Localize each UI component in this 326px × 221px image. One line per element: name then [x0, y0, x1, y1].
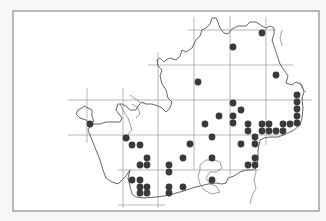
record-dot: [166, 162, 173, 169]
record-dot: [245, 121, 252, 128]
record-dot: [137, 142, 144, 149]
record-dot: [129, 142, 136, 149]
record-dot: [137, 184, 144, 191]
record-dot: [245, 128, 252, 135]
record-dot: [294, 99, 301, 106]
record-dot: [252, 141, 259, 148]
record-dot: [209, 177, 216, 184]
record-dot: [294, 92, 301, 99]
record-dot: [144, 162, 151, 169]
record-dot: [266, 128, 273, 135]
record-dot: [252, 155, 259, 162]
record-dot: [195, 79, 202, 86]
record-dot: [273, 72, 280, 79]
record-dot: [252, 162, 259, 169]
record-dot: [266, 121, 273, 128]
record-dot: [187, 141, 194, 148]
record-dot: [209, 134, 216, 141]
record-dot: [280, 121, 287, 128]
record-dot: [137, 177, 144, 184]
record-dot: [129, 177, 136, 184]
record-dot: [166, 169, 173, 176]
record-dot: [294, 113, 301, 120]
record-dot: [166, 190, 173, 197]
record-dot: [245, 162, 252, 169]
record-dot: [209, 155, 216, 162]
record-dot: [252, 134, 259, 141]
record-dot: [123, 135, 130, 142]
record-dot: [238, 141, 245, 148]
record-dot: [230, 113, 237, 120]
map-frame: [13, 11, 319, 211]
record-dot: [238, 107, 245, 114]
record-dot: [87, 121, 94, 128]
record-dot: [230, 100, 237, 107]
distribution-map: [0, 0, 326, 221]
record-dot: [216, 113, 223, 120]
record-dot: [144, 155, 151, 162]
record-dot: [144, 184, 151, 191]
record-dot: [180, 184, 187, 191]
record-dot: [280, 128, 287, 135]
record-dot: [137, 190, 144, 197]
record-dot: [259, 30, 266, 37]
record-dot: [259, 121, 266, 128]
record-dot: [166, 184, 173, 191]
record-dot: [137, 162, 144, 169]
record-dot: [294, 120, 301, 127]
record-dot: [144, 190, 151, 197]
record-dot: [230, 44, 237, 51]
record-dot: [294, 106, 301, 113]
record-dot: [230, 120, 237, 127]
record-dot: [202, 121, 209, 128]
record-dot: [287, 121, 294, 128]
record-dot: [259, 128, 266, 135]
record-dot: [180, 155, 187, 162]
map-canvas: [0, 0, 326, 221]
record-dot: [273, 128, 280, 135]
